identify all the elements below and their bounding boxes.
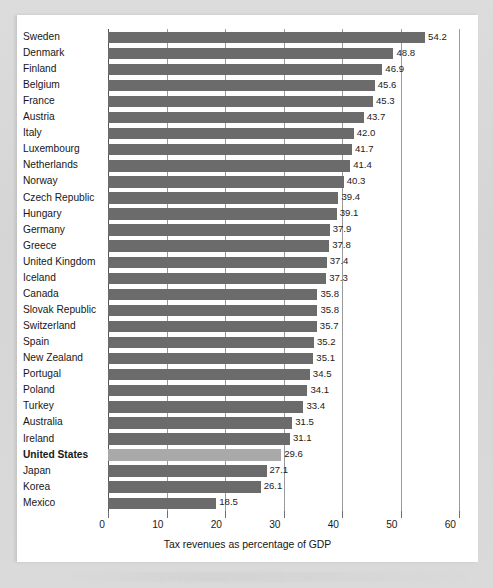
category-label: Norway bbox=[23, 175, 109, 187]
bar-value-label: 42.0 bbox=[357, 127, 376, 139]
bar-row: 29.6 bbox=[108, 447, 459, 463]
bar-value-label: 33.4 bbox=[306, 400, 325, 412]
bar-value-label: 45.6 bbox=[378, 79, 397, 91]
bar-row: 18.5 bbox=[108, 495, 459, 511]
bar-row: 54.2 bbox=[108, 29, 459, 45]
category-label: United Kingdom bbox=[23, 256, 109, 268]
bar bbox=[108, 449, 281, 460]
bar bbox=[108, 337, 314, 348]
bar bbox=[108, 192, 338, 203]
bar-row: 35.7 bbox=[108, 318, 459, 334]
bar-row: 35.8 bbox=[108, 302, 459, 318]
bar-value-label: 37.9 bbox=[333, 223, 352, 235]
bar bbox=[108, 401, 303, 412]
bar-row: 45.3 bbox=[108, 93, 459, 109]
bar bbox=[108, 417, 292, 428]
bar bbox=[108, 208, 337, 219]
x-tick-mark-50 bbox=[401, 511, 402, 518]
category-label: Italy bbox=[23, 127, 109, 139]
bar-row: 31.1 bbox=[108, 431, 459, 447]
bar-row: 41.7 bbox=[108, 141, 459, 157]
bar-value-label: 46.9 bbox=[385, 63, 404, 75]
plot-area: 54.248.846.945.645.343.742.041.741.440.3… bbox=[108, 29, 459, 511]
bar bbox=[108, 481, 261, 492]
bar-value-label: 35.8 bbox=[320, 304, 339, 316]
bar bbox=[108, 369, 310, 380]
bar-value-label: 29.6 bbox=[284, 448, 303, 460]
bar-row: 39.4 bbox=[108, 190, 459, 206]
bar-row: 34.1 bbox=[108, 382, 459, 398]
bar-row: 41.4 bbox=[108, 158, 459, 174]
category-label: Germany bbox=[23, 224, 109, 236]
bar-value-label: 39.1 bbox=[340, 207, 359, 219]
bar bbox=[108, 465, 267, 476]
x-tick-label-60: 60 bbox=[419, 518, 456, 531]
category-label: United States bbox=[23, 449, 109, 461]
category-axis: SwedenDenmarkFinlandBelgiumFranceAustria… bbox=[23, 29, 109, 511]
bar bbox=[108, 273, 326, 284]
x-tick-mark-20 bbox=[225, 511, 226, 518]
bar-value-label: 40.3 bbox=[347, 175, 366, 187]
bar-value-label: 35.8 bbox=[320, 288, 339, 300]
category-label: France bbox=[23, 95, 109, 107]
x-tick-mark-30 bbox=[284, 511, 285, 518]
bar-value-label: 35.7 bbox=[320, 320, 339, 332]
bar bbox=[108, 257, 327, 268]
x-tick-label-30: 30 bbox=[244, 518, 281, 531]
bar-value-label: 48.8 bbox=[396, 47, 415, 59]
x-tick-label-50: 50 bbox=[361, 518, 398, 531]
gridline-60 bbox=[459, 29, 460, 511]
bar-value-label: 45.3 bbox=[376, 95, 395, 107]
category-label: Korea bbox=[23, 481, 109, 493]
bar-value-label: 18.5 bbox=[219, 496, 238, 508]
category-label: Slovak Republic bbox=[23, 304, 109, 316]
bar-value-label: 54.2 bbox=[428, 31, 447, 43]
x-tick-mark-40 bbox=[342, 511, 343, 518]
category-label: Iceland bbox=[23, 272, 109, 284]
bar-value-label: 37.4 bbox=[330, 255, 349, 267]
x-tick-label-0: 0 bbox=[68, 518, 105, 531]
x-axis: 0102030405060 bbox=[108, 511, 468, 537]
x-tick-label-40: 40 bbox=[302, 518, 339, 531]
bar-value-label: 43.7 bbox=[367, 111, 386, 123]
bar-row: 35.1 bbox=[108, 350, 459, 366]
bar-row: 37.4 bbox=[108, 254, 459, 270]
bar-row: 26.1 bbox=[108, 479, 459, 495]
bar-row: 48.8 bbox=[108, 45, 459, 61]
bar-row: 46.9 bbox=[108, 61, 459, 77]
x-axis-title: Tax revenues as percentage of GDP bbox=[17, 539, 478, 550]
category-label: Sweden bbox=[23, 31, 109, 43]
bar-chart: 54.248.846.945.645.343.742.041.741.440.3… bbox=[17, 15, 478, 562]
bar-value-label: 39.4 bbox=[341, 191, 360, 203]
bar-row: 45.6 bbox=[108, 77, 459, 93]
bar bbox=[108, 224, 330, 235]
bar-value-label: 35.2 bbox=[317, 336, 336, 348]
bar bbox=[108, 112, 364, 123]
bar-value-label: 34.5 bbox=[313, 368, 332, 380]
bar-row: 34.5 bbox=[108, 366, 459, 382]
bar-value-label: 41.7 bbox=[355, 143, 374, 155]
category-label: Poland bbox=[23, 384, 109, 396]
category-label: Belgium bbox=[23, 79, 109, 91]
bar-value-label: 34.1 bbox=[310, 384, 329, 396]
bar-row: 43.7 bbox=[108, 109, 459, 125]
category-label: Hungary bbox=[23, 208, 109, 220]
bar bbox=[108, 240, 329, 251]
bar bbox=[108, 160, 350, 171]
bar-row: 35.8 bbox=[108, 286, 459, 302]
category-label: Mexico bbox=[23, 497, 109, 509]
category-label: Luxembourg bbox=[23, 143, 109, 155]
bar-value-label: 35.1 bbox=[316, 352, 335, 364]
category-label: Austria bbox=[23, 111, 109, 123]
bar bbox=[108, 353, 313, 364]
category-label: Greece bbox=[23, 240, 109, 252]
category-label: Switzerland bbox=[23, 320, 109, 332]
bar-value-label: 37.8 bbox=[332, 239, 351, 251]
bar-row: 35.2 bbox=[108, 334, 459, 350]
category-label: Denmark bbox=[23, 47, 109, 59]
x-tick-mark-0 bbox=[108, 511, 109, 518]
x-tick-label-20: 20 bbox=[185, 518, 222, 531]
bar bbox=[108, 289, 317, 300]
bar bbox=[108, 176, 344, 187]
bar-value-label: 41.4 bbox=[353, 159, 372, 171]
